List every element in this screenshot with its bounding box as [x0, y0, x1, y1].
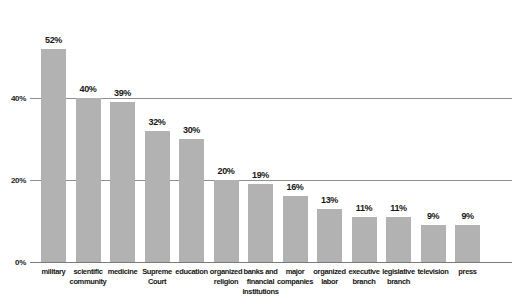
bar[interactable]: [248, 184, 273, 262]
bar[interactable]: [76, 98, 101, 262]
y-axis-tick-label: 20%: [0, 176, 26, 185]
bar-value-label: 19%: [252, 170, 269, 180]
gridline-0pct: [30, 262, 512, 263]
category-label: legislative branch: [379, 267, 418, 287]
bar[interactable]: [41, 49, 66, 262]
bar-value-label: 16%: [287, 182, 304, 192]
bar[interactable]: [352, 217, 377, 262]
bar-value-label: 20%: [218, 166, 235, 176]
gridline-20pct: [30, 180, 512, 181]
bar[interactable]: [214, 180, 239, 262]
category-label: scientific community: [69, 267, 108, 287]
bar[interactable]: [317, 209, 342, 262]
gridline-40pct: [30, 98, 512, 99]
y-axis-tick-label: 0%: [0, 258, 26, 267]
bar[interactable]: [455, 225, 480, 262]
bar[interactable]: [110, 102, 135, 262]
bar[interactable]: [386, 217, 411, 262]
category-label: organized religion: [207, 267, 246, 287]
bar-value-label: 11%: [356, 203, 372, 213]
category-label: military: [34, 267, 73, 277]
category-label: organized labor: [310, 267, 349, 287]
bar-value-label: 9%: [461, 211, 473, 221]
category-label: major companies: [276, 267, 315, 287]
bar-value-label: 9%: [427, 211, 439, 221]
bar-value-label: 13%: [321, 195, 338, 205]
category-label: press: [448, 267, 487, 277]
bar-value-label: 11%: [390, 203, 406, 213]
bar-value-label: 39%: [114, 88, 131, 98]
plot-area: 0%20%40%52%military40%scientific communi…: [0, 0, 525, 307]
bar-chart: 0%20%40%52%military40%scientific communi…: [0, 0, 525, 307]
category-label: banks and financial institutions: [241, 267, 280, 297]
bar-value-label: 30%: [183, 125, 200, 135]
bar[interactable]: [421, 225, 446, 262]
category-label: medicine: [103, 267, 142, 277]
category-label: Supreme Court: [138, 267, 177, 287]
bar-value-label: 40%: [80, 84, 97, 94]
bar[interactable]: [179, 139, 204, 262]
category-label: education: [172, 267, 211, 277]
bar[interactable]: [283, 196, 308, 262]
category-label: television: [414, 267, 453, 277]
category-label: executive branch: [345, 267, 384, 287]
y-axis-tick-label: 40%: [0, 94, 26, 103]
bar-value-label: 52%: [45, 35, 62, 45]
bar-value-label: 32%: [149, 117, 166, 127]
bar[interactable]: [145, 131, 170, 262]
